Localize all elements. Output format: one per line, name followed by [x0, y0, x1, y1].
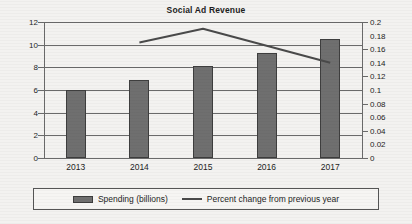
chart-legend: Spending (billions) Percent change from …: [33, 188, 379, 210]
plot-area: [44, 22, 362, 158]
right-axis-tick-label: 0.12: [370, 72, 404, 81]
right-axis-tick-label: 0.16: [370, 45, 404, 54]
right-axis-tick-label: 0.04: [370, 126, 404, 135]
right-axis-tick-label: 0.2: [370, 18, 404, 27]
gridline: [44, 158, 362, 159]
bar: [193, 66, 213, 158]
right-axis-tick-label: 0.1: [370, 86, 404, 95]
x-axis-tick-label: 2015: [194, 162, 213, 172]
x-axis-tick-label: 2013: [66, 162, 85, 172]
right-axis-line: [362, 22, 363, 158]
right-axis-tick-label: 0.06: [370, 113, 404, 122]
right-axis-tick-label: 0.02: [370, 140, 404, 149]
left-axis-tick-label: 6: [18, 86, 38, 95]
gridline: [44, 45, 362, 46]
left-axis-tick-label: 4: [18, 108, 38, 117]
bar: [129, 80, 149, 158]
bar: [66, 90, 86, 158]
x-axis-tick-label: 2014: [130, 162, 149, 172]
line-swatch-icon: [182, 198, 202, 200]
left-axis-tick-label: 10: [18, 40, 38, 49]
legend-label-spending: Spending (billions): [98, 194, 168, 204]
left-axis-tick-label: 12: [18, 18, 38, 27]
right-axis-tick-mark: [362, 158, 368, 159]
right-axis-tick-label: 0.08: [370, 99, 404, 108]
x-axis-tick-label: 2016: [257, 162, 276, 172]
social-ad-revenue-chart: Social Ad Revenue 1210864200.20.180.160.…: [0, 0, 412, 224]
legend-label-percent-change: Percent change from previous year: [207, 194, 339, 204]
right-axis-tick-label: 0.18: [370, 31, 404, 40]
x-axis-tick-label: 2017: [321, 162, 340, 172]
bar-swatch-icon: [73, 196, 93, 203]
left-axis-tick-label: 0: [18, 154, 38, 163]
right-axis-tick-label: 0.14: [370, 58, 404, 67]
legend-item-spending: Spending (billions): [73, 194, 168, 204]
right-axis-tick-label: 0: [370, 154, 404, 163]
gridline: [44, 22, 362, 23]
bar: [257, 53, 277, 158]
bar: [320, 39, 340, 158]
left-axis-tick-label: 2: [18, 131, 38, 140]
legend-item-percent-change: Percent change from previous year: [182, 194, 339, 204]
left-axis-tick-label: 8: [18, 63, 38, 72]
